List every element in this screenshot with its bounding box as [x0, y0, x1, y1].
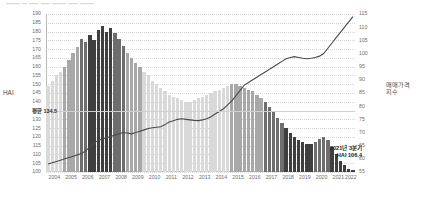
y-tick-left: 100 — [32, 169, 41, 174]
x-axis: 2004200520062007200820092010201120122013… — [46, 174, 355, 186]
y-tick-left: 190 — [32, 11, 41, 16]
callout-line-2: HAI 106.4 — [300, 152, 362, 159]
x-tick: 2009 — [132, 174, 144, 180]
y-tick-right: 110 — [359, 25, 367, 30]
y-tick-left: 170 — [32, 47, 41, 52]
x-tick: 2010 — [149, 174, 161, 180]
y-tick-left: 115 — [33, 143, 41, 148]
x-tick: 2004 — [49, 174, 61, 180]
x-tick: 2022 — [345, 174, 357, 180]
chart-title-strip: ━━━ ━ ━━ ━━ ━━━ ━━ ━━━ — [6, 0, 246, 8]
chart-root: ━━━ ━ ━━ ━━ ━━━ ━━ ━━━ 19018518017517016… — [0, 0, 423, 198]
y-tick-right: 115 — [359, 11, 367, 16]
y-tick-left: 165 — [32, 55, 41, 60]
y-tick-left: 105 — [32, 161, 41, 166]
x-tick: 2018 — [282, 174, 294, 180]
y-tick-left: 130 — [32, 117, 41, 122]
y-tick-left: 180 — [32, 29, 41, 34]
y-tick-left: 150 — [32, 82, 41, 87]
y-tick-right: 95 — [359, 64, 365, 69]
y-tick-left: 160 — [32, 64, 41, 69]
x-tick: 2016 — [249, 174, 261, 180]
y-tick-right: 90 — [359, 77, 365, 82]
y-tick-right: 85 — [359, 90, 365, 95]
callout-line-1: 2021년 3분기 — [300, 145, 362, 152]
y-tick-left: 125 — [32, 126, 41, 131]
y-tick-right: 75 — [359, 117, 365, 122]
y-axis-right-title-1: 매매가격 — [386, 81, 410, 88]
x-tick: 2005 — [65, 174, 77, 180]
y-tick-left: 110 — [33, 152, 41, 157]
x-tick: 2011 — [166, 174, 177, 180]
x-tick: 2008 — [115, 174, 127, 180]
x-tick: 2017 — [266, 174, 278, 180]
y-tick-right: 100 — [359, 51, 368, 56]
x-tick: 2014 — [216, 174, 228, 180]
y-tick-right: 55 — [359, 169, 365, 174]
x-tick: 2015 — [232, 174, 244, 180]
x-tick: 2007 — [99, 174, 111, 180]
y-tick-left: 145 — [32, 90, 41, 95]
y-tick-left: 140 — [32, 99, 41, 104]
y-tick-right: 105 — [359, 38, 368, 43]
x-tick: 2021 — [333, 174, 345, 180]
y-tick-right: 80 — [359, 104, 365, 109]
y-tick-right: 70 — [359, 130, 365, 135]
y-tick-left: 175 — [32, 38, 41, 43]
y-tick-left: 185 — [32, 20, 41, 25]
y-axis-right-title-2: 지수 — [386, 88, 398, 95]
y-axis-left-title: HAI — [3, 90, 14, 96]
x-tick: 2019 — [299, 174, 311, 180]
x-tick: 2006 — [82, 174, 94, 180]
average-line — [46, 111, 355, 112]
x-tick: 2013 — [199, 174, 211, 180]
gridline — [46, 172, 355, 173]
x-tick: 2012 — [182, 174, 194, 180]
highlight-callout: 2021년 3분기 HAI 106.4 — [300, 145, 362, 159]
average-label: 평균 134.5 — [32, 108, 57, 114]
y-tick-left: 155 — [32, 73, 41, 78]
x-tick: 2020 — [316, 174, 328, 180]
y-tick-left: 120 — [32, 134, 41, 139]
